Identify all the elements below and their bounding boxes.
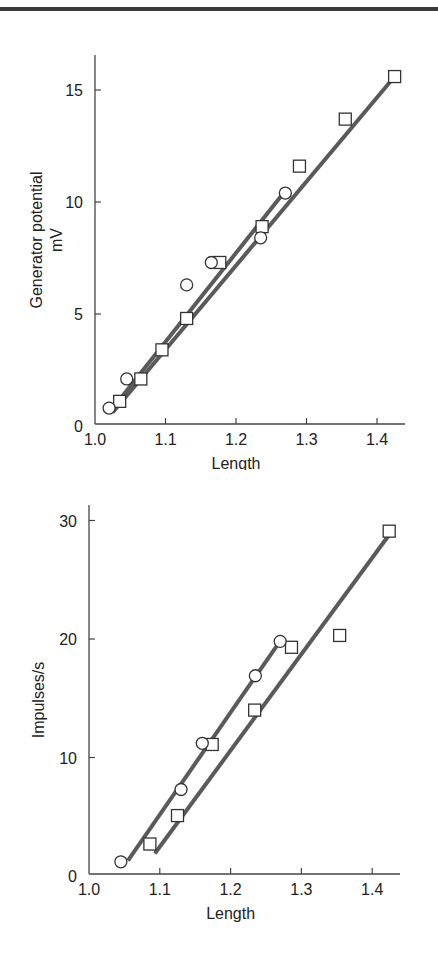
square-marker xyxy=(285,641,297,653)
impulses-chart: 1.01.11.21.31.40102030LengthImpulses/s xyxy=(0,0,438,959)
square-marker xyxy=(383,525,395,537)
plot-area: 1.01.11.21.31.40102030LengthImpulses/s xyxy=(30,505,400,922)
circle-marker xyxy=(249,670,261,682)
y-axis-title: Impulses/s xyxy=(30,662,47,738)
circle-marker xyxy=(196,737,208,749)
square-marker xyxy=(144,838,156,850)
y-tick-label: 10 xyxy=(59,750,77,767)
circle-marker xyxy=(115,856,127,868)
y-tick-label: 30 xyxy=(59,513,77,530)
square-marker xyxy=(334,629,346,641)
square-marker xyxy=(172,810,184,822)
square-marker xyxy=(249,704,261,716)
x-tick-label: 1.3 xyxy=(290,881,312,898)
circle-marker xyxy=(274,635,286,647)
x-tick-label: 1.2 xyxy=(219,881,241,898)
x-tick-label: 1.4 xyxy=(361,881,383,898)
fit-line-squares xyxy=(155,535,389,854)
y-tick-label: 20 xyxy=(59,631,77,648)
y-tick-label: 0 xyxy=(68,868,77,885)
x-axis-title: Length xyxy=(206,905,255,922)
circle-marker xyxy=(175,783,187,795)
x-tick-label: 1.1 xyxy=(149,881,171,898)
x-tick-label: 1.0 xyxy=(78,881,100,898)
